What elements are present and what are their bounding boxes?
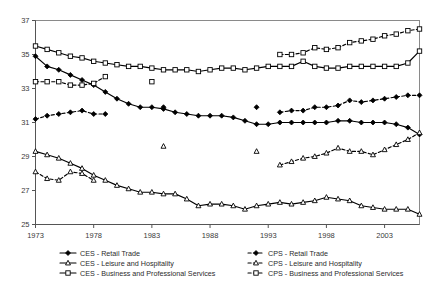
data-point-marker [231,115,236,120]
data-point-marker [208,201,213,206]
data-point-marker [114,183,119,188]
data-point-marker [173,68,177,72]
data-point-marker [336,196,341,201]
data-point-marker [150,80,154,84]
data-point-marker [149,105,154,110]
data-point-marker [371,64,375,68]
data-point-marker [301,108,306,113]
data-point-marker [347,149,352,154]
legend-label: CPS - Retail Trade [268,249,328,258]
data-point-marker [68,72,73,77]
data-point-marker [254,66,258,70]
chart-legend: CES - Retail TradeCPS - Retail TradeCES … [60,249,404,278]
data-point-marker [289,120,294,125]
data-point-marker [324,120,329,125]
legend-entry-0[interactable]: CES - Retail Trade [60,249,140,258]
data-point-marker [126,101,131,106]
data-point-marker [173,110,178,115]
data-point-marker [254,251,259,256]
data-point-marker [312,198,317,203]
data-point-marker [231,66,235,70]
data-point-marker [324,195,329,200]
data-point-marker [289,159,294,164]
data-point-marker [80,56,84,60]
data-point-marker [405,125,410,130]
data-point-marker [91,173,96,178]
data-point-marker [114,96,119,101]
data-point-marker [347,98,352,103]
data-point-marker [347,64,351,68]
data-point-marker [347,118,352,123]
data-point-marker [394,95,399,100]
data-point-marker [382,64,386,68]
data-point-marker [406,61,410,65]
data-point-marker [33,80,37,84]
data-point-marker [289,108,294,113]
legend-entry-5[interactable]: CPS - Business and Professional Services [248,269,404,278]
data-point-marker [57,80,61,84]
data-point-marker [56,112,61,117]
data-point-marker [313,64,317,68]
data-point-marker [138,190,143,195]
data-point-marker [56,67,61,72]
data-point-marker [370,152,375,157]
data-point-marker [417,27,421,31]
legend-entry-3[interactable]: CPS - Leisure and Hospitality [248,259,362,268]
data-point-marker [266,122,271,127]
data-point-marker [45,152,50,157]
x-axis-ticks: 1973197819831988199319982003 [27,225,393,240]
data-point-marker [68,161,73,166]
data-point-marker [57,51,61,55]
data-point-marker [33,169,38,174]
data-point-marker [103,74,107,78]
data-point-marker [266,64,270,68]
data-point-marker [33,149,38,154]
data-point-marker [126,64,130,68]
data-point-marker [161,144,166,149]
data-point-marker [33,117,38,122]
series-3 [33,93,422,122]
data-point-marker [417,212,422,217]
data-point-marker [103,89,108,94]
data-point-marker [80,108,85,113]
data-point-marker [382,147,387,152]
data-point-marker [242,118,247,123]
data-point-marker [91,178,96,183]
legend-entry-2[interactable]: CES - Leisure and Hospitality [60,259,174,268]
data-point-marker [405,207,410,212]
data-point-marker [254,122,259,127]
data-point-marker [254,149,259,154]
legend-entry-1[interactable]: CPS - Retail Trade [248,249,328,258]
data-point-marker [184,196,189,201]
data-point-marker [45,47,49,51]
legend-entry-4[interactable]: CES - Business and Professional Services [60,269,216,278]
data-point-marker [359,149,364,154]
data-point-marker [417,49,421,53]
data-point-marker [254,105,259,110]
data-point-marker [359,203,364,208]
data-point-marker [312,154,317,159]
x-tick-label: 1983 [144,231,161,240]
data-point-marker [138,64,142,68]
legend-label: CES - Business and Professional Services [80,269,216,278]
series-layer [33,27,422,216]
data-point-marker [394,207,399,212]
data-point-marker [278,52,282,56]
data-point-marker [359,100,364,105]
data-point-marker [301,59,305,63]
data-point-marker [301,200,306,205]
data-point-marker [347,40,351,44]
data-point-marker [219,201,224,206]
data-point-marker [150,66,154,70]
data-point-marker [382,34,386,38]
data-point-marker [68,54,72,58]
data-point-marker [382,96,387,101]
data-point-marker [394,122,399,127]
data-point-marker [382,207,387,212]
data-point-marker [324,105,329,110]
data-point-marker [103,61,107,65]
data-point-marker [208,68,212,72]
data-point-marker [196,69,200,73]
data-point-marker [336,145,341,150]
y-tick-label: 37 [21,16,29,25]
